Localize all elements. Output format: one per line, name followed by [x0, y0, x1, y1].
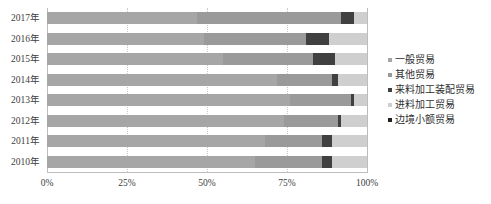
bar-segment [341, 12, 354, 24]
bar-segment [354, 12, 367, 24]
bar-segment [341, 115, 367, 127]
legend-swatch-icon [388, 88, 392, 92]
bar-segment [47, 94, 290, 106]
legend-label: 一般贸易 [395, 52, 435, 67]
bar-segment [255, 156, 322, 168]
bar-segment [47, 33, 204, 45]
legend-swatch-icon [388, 118, 392, 122]
legend-item[interactable]: 进料加工贸易 [388, 97, 488, 112]
bar-segment [197, 12, 341, 24]
legend-label: 来料加工装配贸易 [395, 82, 475, 97]
bar-row [47, 156, 367, 168]
y-axis-label: 2015年 [11, 53, 40, 65]
bar-segment [329, 33, 367, 45]
x-axis-tick-label: 25% [118, 176, 135, 190]
y-axis-label: 2013年 [11, 94, 40, 106]
bar-segment [284, 115, 338, 127]
x-axis-labels: 0%25%50%75%100% [47, 176, 367, 192]
bar-row [47, 94, 367, 106]
bar-rows [47, 8, 367, 172]
legend-label: 边境小额贸易 [395, 112, 455, 127]
legend-label: 其他贸易 [395, 67, 435, 82]
legend-swatch-icon [388, 103, 392, 107]
gridline-100% [367, 8, 369, 172]
bar-segment [338, 74, 367, 86]
x-axis-tick-label: 0% [41, 176, 54, 190]
legend-item[interactable]: 来料加工装配贸易 [388, 82, 488, 97]
bar-segment [47, 156, 255, 168]
legend-item[interactable]: 其他贸易 [388, 67, 488, 82]
bar-segment [335, 53, 367, 65]
legend-item[interactable]: 一般贸易 [388, 52, 488, 67]
x-axis-tick-label: 75% [278, 176, 295, 190]
bar-segment [47, 135, 265, 147]
bar-segment [322, 135, 332, 147]
stacked-bar-chart: 2017年2016年2015年2014年2013年2012年2011年2010年… [0, 0, 491, 204]
bar-segment [47, 115, 284, 127]
y-axis-label: 2014年 [11, 74, 40, 86]
bar-row [47, 53, 367, 65]
bar-row [47, 135, 367, 147]
bar-segment [223, 53, 313, 65]
bar-segment [47, 12, 197, 24]
x-axis-line [47, 172, 368, 173]
y-axis-label: 2011年 [11, 135, 40, 147]
bar-segment [306, 33, 328, 45]
bar-row [47, 12, 367, 24]
bar-segment [47, 74, 277, 86]
y-axis-label: 2016年 [11, 33, 40, 45]
bar-segment [354, 94, 367, 106]
y-axis-label: 2010年 [11, 156, 40, 168]
legend-swatch-icon [388, 73, 392, 77]
bar-segment [47, 53, 223, 65]
legend-item[interactable]: 边境小额贸易 [388, 112, 488, 127]
bar-segment [290, 94, 351, 106]
legend-swatch-icon [388, 58, 392, 62]
bar-segment [313, 53, 335, 65]
legend-label: 进料加工贸易 [395, 97, 455, 112]
bar-segment [332, 156, 367, 168]
bar-segment [277, 74, 331, 86]
bar-segment [332, 135, 367, 147]
x-axis-tick-label: 50% [198, 176, 215, 190]
bar-segment [322, 156, 332, 168]
bar-row [47, 74, 367, 86]
x-axis-tick-label: 100% [356, 176, 378, 190]
y-axis-label: 2017年 [11, 12, 40, 24]
chart-legend: 一般贸易其他贸易来料加工装配贸易进料加工贸易边境小额贸易 [388, 52, 488, 127]
y-axis-labels: 2017年2016年2015年2014年2013年2012年2011年2010年 [0, 8, 43, 172]
bar-row [47, 115, 367, 127]
bar-row [47, 33, 367, 45]
plot-area [47, 8, 367, 172]
bar-segment [265, 135, 323, 147]
bar-segment [204, 33, 306, 45]
y-axis-label: 2012年 [11, 115, 40, 127]
